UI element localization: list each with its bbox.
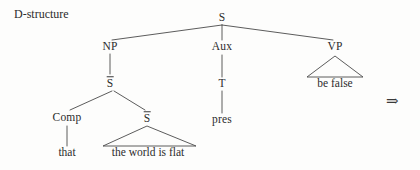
d-structure-tree-diagram: D-structure SNPAuxVPSTCompSpres be false… <box>0 0 420 170</box>
phrase-triangle <box>103 126 196 146</box>
terminal-the-world-is-flat: the world is flat <box>112 147 185 159</box>
terminal-be-false: be false <box>317 78 352 90</box>
tree-branch <box>114 91 145 110</box>
node-comp: Comp <box>53 112 82 124</box>
derivation-arrow-icon: ⇒ <box>386 94 399 109</box>
tree-branch <box>222 25 333 40</box>
node-sbar-upper: S <box>107 76 114 90</box>
node-root-s: S <box>219 12 226 24</box>
tree-branch-lines <box>0 0 420 170</box>
node-pres: pres <box>212 114 232 126</box>
terminal-that: that <box>58 147 75 159</box>
node-sbar-lower: S <box>144 111 151 125</box>
phrase-triangle <box>307 56 363 77</box>
node-t: T <box>218 78 225 90</box>
tree-branch <box>70 91 112 110</box>
node-vp: VP <box>327 41 342 53</box>
tree-branch <box>112 25 222 40</box>
node-np: NP <box>102 41 117 53</box>
node-aux: Aux <box>212 41 232 53</box>
